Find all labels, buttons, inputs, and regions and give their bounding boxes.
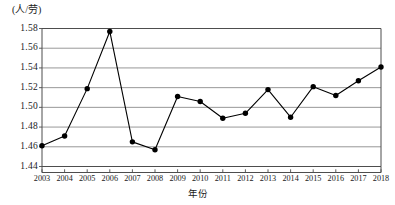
data-point-marker xyxy=(243,111,248,116)
y-axis-tick-label: 1.58 xyxy=(2,23,38,33)
data-point-marker xyxy=(107,29,112,34)
x-axis-tick-label: 2018 xyxy=(366,174,395,183)
data-point-marker xyxy=(378,64,383,69)
y-axis-tick-label: 1.48 xyxy=(2,121,38,131)
data-point-marker xyxy=(198,99,203,104)
data-point-marker xyxy=(152,147,157,152)
y-axis-tick-label: 1.50 xyxy=(2,101,38,111)
data-point-marker xyxy=(311,84,316,89)
data-point-marker xyxy=(288,115,293,120)
data-point-marker xyxy=(220,116,225,121)
data-point-marker xyxy=(85,86,90,91)
data-point-marker xyxy=(333,93,338,98)
y-axis-tick-label: 1.56 xyxy=(2,42,38,52)
data-point-marker xyxy=(130,139,135,144)
data-point-marker xyxy=(265,87,270,92)
data-line xyxy=(42,31,381,149)
data-point-marker xyxy=(175,94,180,99)
y-axis-tick-label: 1.46 xyxy=(2,141,38,151)
data-point-marker xyxy=(39,143,44,148)
data-point-marker xyxy=(356,78,361,83)
x-axis-title: 年份 xyxy=(0,186,395,200)
y-axis-tick-label: 1.52 xyxy=(2,82,38,92)
y-axis-tick-label: 1.54 xyxy=(2,62,38,72)
y-axis-tick-label: 1.44 xyxy=(2,161,38,171)
data-point-marker xyxy=(62,133,67,138)
line-chart-figure: (人/劳) 1.441.461.481.501.521.541.561.58 2… xyxy=(0,0,395,205)
